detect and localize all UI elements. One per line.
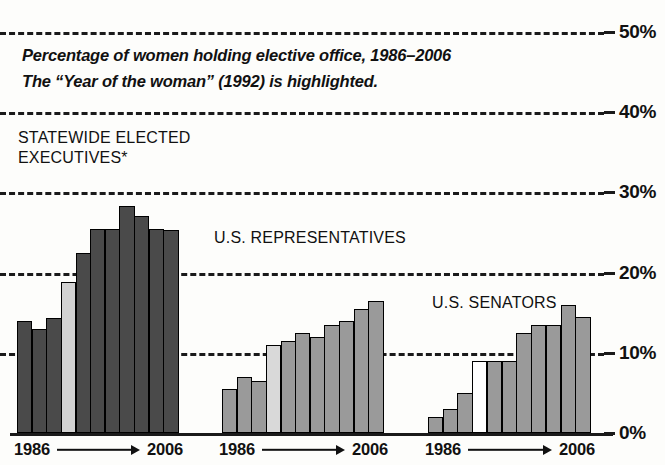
x-axis-senators: 19862006: [425, 440, 595, 459]
bar-senators-2004: [561, 305, 576, 433]
chart-subtitle-line-2: The “Year of the woman” (1992) is highli…: [22, 72, 378, 91]
bar-representatives-2000: [324, 325, 339, 433]
x-axis-start-year-senators: 1986: [425, 440, 461, 459]
y-axis-tick-mark-30: [604, 191, 615, 194]
bar-senators-1994: [487, 361, 502, 433]
bar-statewide-1994: [76, 253, 91, 433]
series-label-statewide-line-2: EXECUTIVES*: [18, 148, 191, 168]
y-axis-tick-mark-10: [604, 352, 615, 355]
x-axis-end-year-senators: 2006: [559, 440, 595, 459]
bar-statewide-2000: [119, 206, 134, 433]
series-label-representatives: U.S. REPRESENTATIVES: [214, 228, 406, 248]
y-axis-tick-40: 40%: [619, 102, 656, 121]
bar-statewide-1992: [61, 282, 76, 433]
y-axis-tick-mark-20: [604, 272, 615, 275]
bar-representatives-1990: [251, 381, 266, 433]
series-label-senators: U.S. SENATORS: [432, 293, 557, 313]
bar-statewide-1988: [32, 329, 47, 433]
gridline-40: [0, 112, 604, 115]
bar-statewide-1998: [105, 229, 120, 434]
series-label-statewide: STATEWIDE ELECTEDEXECUTIVES*: [18, 128, 191, 167]
x-axis-start-year-representatives: 1986: [219, 440, 255, 459]
x-axis-arrow-senators: [468, 444, 552, 456]
x-axis-arrow-representatives: [262, 444, 345, 456]
bar-representatives-1998: [310, 337, 325, 433]
bar-senators-1996: [502, 361, 517, 433]
chart-subtitle-line-1: Percentage of women holding elective off…: [22, 46, 451, 65]
series-label-statewide-line-1: STATEWIDE ELECTED: [18, 128, 191, 148]
y-axis-tick-mark-40: [604, 111, 615, 114]
x-axis-arrow-statewide: [57, 444, 140, 456]
bar-statewide-2002: [134, 216, 149, 433]
y-axis-tick-20: 20%: [619, 263, 656, 282]
x-axis-representatives: 19862006: [219, 440, 388, 459]
x-axis-baseline: [10, 433, 613, 436]
bar-representatives-1996: [295, 333, 310, 433]
bar-representatives-2004: [354, 309, 369, 433]
bar-representatives-2006: [368, 301, 383, 433]
bar-statewide-2004: [149, 229, 164, 434]
x-axis-end-year-representatives: 2006: [352, 440, 388, 459]
y-axis-tick-0: 0%: [619, 423, 646, 442]
y-axis-tick-10: 10%: [619, 343, 656, 362]
bar-senators-2006: [575, 317, 590, 433]
bar-statewide-1990: [46, 318, 61, 433]
series-label-representatives-line-1: U.S. REPRESENTATIVES: [214, 228, 406, 248]
gridline-30: [0, 192, 604, 195]
bar-senators-1992: [472, 361, 487, 433]
bar-senators-2000: [531, 325, 546, 433]
bar-statewide-1996: [90, 229, 105, 434]
bar-statewide-1986: [17, 321, 32, 433]
bar-senators-2002: [546, 325, 561, 433]
bar-representatives-1988: [237, 377, 252, 433]
gridline-50: [0, 32, 604, 35]
bar-representatives-2002: [339, 321, 354, 433]
chart-canvas: 0%10%20%30%40%50% Percentage of women ho…: [0, 0, 665, 465]
bar-representatives-1986: [222, 389, 237, 433]
series-label-senators-line-1: U.S. SENATORS: [432, 293, 557, 313]
x-axis-statewide: 19862006: [14, 440, 183, 459]
x-axis-start-year-statewide: 1986: [14, 440, 50, 459]
y-axis-tick-mark-50: [604, 31, 615, 34]
bar-representatives-1994: [281, 341, 296, 433]
bar-statewide-2006: [163, 230, 178, 433]
bar-senators-1990: [457, 393, 472, 433]
bar-representatives-1992: [266, 345, 281, 433]
x-axis-end-year-statewide: 2006: [147, 440, 183, 459]
bar-senators-1986: [428, 417, 443, 433]
bar-senators-1998: [516, 333, 531, 433]
y-axis-tick-50: 50%: [619, 22, 656, 41]
bar-senators-1988: [443, 409, 458, 433]
y-axis-tick-30: 30%: [619, 182, 656, 201]
